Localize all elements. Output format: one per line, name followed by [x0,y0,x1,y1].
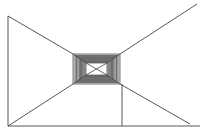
vanishing-point-cross [86,63,107,75]
bottom-left-diagonal [8,84,73,126]
top-right-diagonal [120,4,197,54]
tunnel-diagram [0,0,224,131]
top-left-diagonal [8,16,73,54]
bottom-right-diagonal [120,84,190,124]
